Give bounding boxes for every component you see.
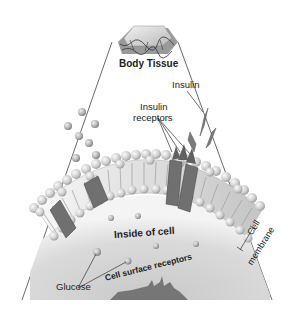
insulin-molecule: [206, 128, 216, 148]
label-insulin-receptors-line1: Insulin: [140, 102, 167, 112]
glucose-outside: [64, 108, 100, 162]
insulin-molecules: [188, 108, 216, 152]
label-body-tissue: Body Tissue: [119, 59, 178, 70]
body-tissue-icon: [118, 26, 178, 58]
label-insulin: Insulin: [172, 80, 199, 90]
label-insulin-receptors-line2: receptors: [133, 113, 173, 123]
label-glucose: Glucose: [56, 282, 91, 292]
